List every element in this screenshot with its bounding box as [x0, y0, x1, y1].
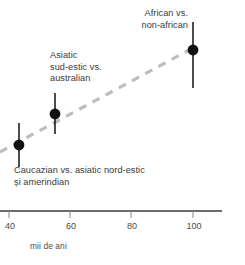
x-tick-label-40: 40	[0, 221, 25, 231]
x-tick-label-60: 60	[56, 221, 86, 231]
annotation-caucazian-vs-asiatic-nordestic: Caucazian vs. asiatic nord-estic și amer…	[14, 165, 145, 188]
data-point-1	[14, 140, 25, 151]
annotation-asiatic-sudestic-vs-australian: Asiatic sud-estic vs. australian	[50, 50, 102, 85]
data-point-3	[188, 45, 199, 56]
x-tick-label-80: 80	[117, 221, 147, 231]
x-axis-title: mii de ani	[30, 241, 67, 251]
scatter-chart: African vs. non-african Asiatic sud-esti…	[0, 0, 245, 265]
data-point-2	[50, 109, 61, 120]
annotation-african-vs-nonafrican: African vs. non-african	[141, 8, 188, 31]
x-tick-label-100: 100	[179, 221, 209, 231]
